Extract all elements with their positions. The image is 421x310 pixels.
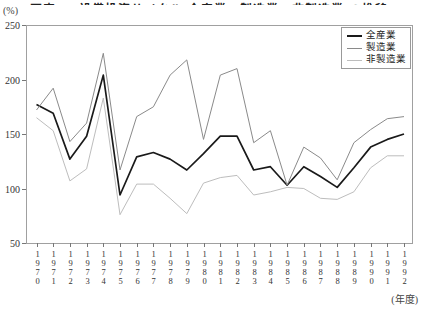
series-zensangyo-line <box>37 75 405 195</box>
x-axis-year-digit: 6 <box>135 276 139 286</box>
legend-item-hiseizogyo: 非製造業 <box>347 55 407 65</box>
x-axis-year-digit: 1 <box>385 276 389 286</box>
zensangyo-line-swatch <box>347 35 362 37</box>
x-axis-year-digit: 6 <box>302 276 306 286</box>
chart-page: 図表2-6 設備投資サイクル(全産業・製造業・非製造業)の推移 (%) 5010… <box>0 0 421 310</box>
y-axis-tick-label: 100 <box>5 184 20 195</box>
legend-item-zensangyo: 全産業 <box>347 31 407 41</box>
x-axis-year-digit: 3 <box>85 276 89 286</box>
x-axis-year-digit: 1 <box>218 276 222 286</box>
x-axis-year-digit: 2 <box>68 276 72 286</box>
hiseizogyo-line-swatch <box>347 60 362 61</box>
x-axis-year-digit: 0 <box>35 276 39 286</box>
x-axis-year-digit: 3 <box>252 276 256 286</box>
x-axis-year-digit: 9 <box>352 276 356 286</box>
legend: 全産業 製造業 非製造業 <box>341 27 411 69</box>
x-axis-year-digit: 0 <box>369 276 373 286</box>
x-axis-year-digit: 8 <box>335 276 339 286</box>
y-axis-tick-label: 250 <box>5 20 20 31</box>
y-axis-tick-label: 50 <box>10 238 20 249</box>
x-axis-year-digit: 8 <box>168 276 172 286</box>
x-axis-year-digit: 4 <box>101 276 106 286</box>
legend-label-zensangyo: 全産業 <box>366 31 396 41</box>
x-axis-year-digit: 2 <box>235 276 239 286</box>
legend-label-seizogyo: 製造業 <box>366 43 396 53</box>
x-axis-year-digit: 0 <box>202 276 206 286</box>
x-axis-year-digit: 2 <box>402 276 406 286</box>
x-axis-year-digit: 7 <box>151 276 155 286</box>
x-axis-year-digit: 5 <box>285 276 289 286</box>
x-axis-year-digit: 5 <box>118 276 122 286</box>
x-axis-year-digit: 4 <box>268 276 273 286</box>
x-axis-year-digit: 1 <box>51 276 55 286</box>
legend-label-hiseizogyo: 非製造業 <box>366 55 406 65</box>
y-axis-tick-label: 200 <box>5 75 20 86</box>
legend-item-seizogyo: 製造業 <box>347 43 407 53</box>
x-axis-year-digit: 9 <box>185 276 189 286</box>
x-axis-unit-label: (年度) <box>391 291 418 306</box>
x-axis-year-digit: 7 <box>318 276 322 286</box>
seizogyo-line-swatch <box>347 48 362 49</box>
y-axis-tick-label: 150 <box>5 129 20 140</box>
